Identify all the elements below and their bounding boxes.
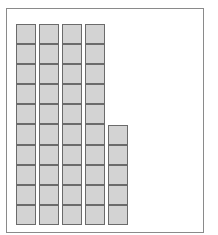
unit-cube <box>39 84 59 104</box>
unit-cube <box>62 145 82 165</box>
unit-cube <box>39 165 59 185</box>
tens-rod <box>16 24 36 225</box>
unit-cube <box>62 185 82 205</box>
unit-cube <box>85 104 105 124</box>
unit-cube <box>39 44 59 64</box>
unit-cube <box>62 165 82 185</box>
ones-column <box>108 125 128 225</box>
unit-cube <box>62 24 82 44</box>
unit-cube <box>16 24 36 44</box>
unit-cube <box>39 124 59 144</box>
unit-cube <box>39 145 59 165</box>
unit-cube <box>62 124 82 144</box>
tens-rod <box>39 24 59 225</box>
unit-cube <box>62 205 82 225</box>
unit-cube <box>39 185 59 205</box>
unit-cube <box>62 64 82 84</box>
unit-cube <box>85 84 105 104</box>
unit-cube <box>85 185 105 205</box>
unit-cube <box>16 205 36 225</box>
unit-cube <box>39 64 59 84</box>
unit-cube <box>16 104 36 124</box>
unit-cube <box>108 165 128 185</box>
unit-cube <box>16 44 36 64</box>
unit-cube <box>39 24 59 44</box>
unit-cube <box>16 84 36 104</box>
unit-cube <box>39 104 59 124</box>
unit-cube <box>85 24 105 44</box>
unit-cube <box>108 205 128 225</box>
tens-rod <box>85 24 105 225</box>
unit-cube <box>16 165 36 185</box>
unit-cube <box>108 185 128 205</box>
unit-cube <box>62 104 82 124</box>
unit-cube <box>16 185 36 205</box>
unit-cube <box>85 205 105 225</box>
unit-cube <box>39 205 59 225</box>
unit-cube <box>16 124 36 144</box>
unit-cube <box>62 84 82 104</box>
unit-cube <box>16 145 36 165</box>
unit-cube <box>85 44 105 64</box>
unit-cube <box>16 64 36 84</box>
tens-rod <box>62 24 82 225</box>
unit-cube <box>62 44 82 64</box>
unit-cube <box>85 165 105 185</box>
unit-cube <box>85 64 105 84</box>
unit-cube <box>108 125 128 145</box>
unit-cube <box>85 145 105 165</box>
unit-cube <box>85 124 105 144</box>
unit-cube <box>108 145 128 165</box>
